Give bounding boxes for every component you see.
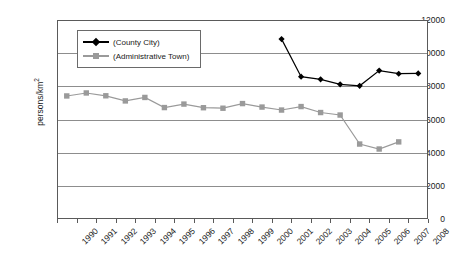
x-axis-tick-label: 2001	[294, 226, 314, 246]
x-axis-tick-label: 1995	[177, 226, 197, 246]
x-axis-tick	[272, 219, 273, 223]
x-axis: 1990199119921993199419951996199719981999…	[57, 219, 428, 260]
x-axis-tick	[155, 219, 156, 223]
gridline	[58, 186, 427, 187]
x-axis-tick	[233, 219, 234, 223]
legend-label-county-city: (County City)	[113, 38, 160, 47]
x-axis-tick-label: 1997	[216, 226, 236, 246]
x-axis-tick-label: 1992	[118, 226, 138, 246]
x-axis-tick	[57, 219, 58, 223]
x-axis-tick	[408, 219, 409, 223]
y-axis-title-text: persons/km	[35, 82, 45, 126]
x-axis-tick	[291, 219, 292, 223]
x-axis-tick-label: 2007	[411, 226, 431, 246]
gridline	[58, 153, 427, 154]
x-axis-tick	[428, 219, 429, 223]
x-axis-tick	[369, 219, 370, 223]
gridline	[58, 86, 427, 87]
x-axis-tick	[389, 219, 390, 223]
gridline	[58, 120, 427, 121]
legend-marker-county-city	[83, 36, 109, 48]
x-axis-tick	[96, 219, 97, 223]
x-axis-tick-label: 1991	[99, 226, 119, 246]
x-axis-tick	[77, 219, 78, 223]
x-axis-tick-label: 1996	[196, 226, 216, 246]
x-axis-tick-label: 2005	[372, 226, 392, 246]
x-axis-tick	[311, 219, 312, 223]
x-axis-tick-label: 1994	[157, 226, 177, 246]
x-axis-tick-label: 2006	[392, 226, 412, 246]
x-axis-tick	[116, 219, 117, 223]
x-axis-tick	[135, 219, 136, 223]
x-axis-tick	[350, 219, 351, 223]
legend-label-administrative-town: (Administrative Town)	[113, 52, 189, 61]
legend-marker-administrative-town	[83, 50, 109, 62]
x-axis-tick-label: 1998	[236, 226, 256, 246]
x-axis-tick-label: 2003	[333, 226, 353, 246]
x-axis-tick-label: 2002	[314, 226, 334, 246]
x-axis-tick	[252, 219, 253, 223]
legend-item-county-city: (County City)	[83, 35, 195, 49]
x-axis-tick-label: 1990	[79, 226, 99, 246]
x-axis-tick	[194, 219, 195, 223]
y-axis-title-exponent: 2	[33, 78, 40, 82]
x-axis-tick-label: 2008	[431, 226, 451, 246]
x-axis-tick	[213, 219, 214, 223]
x-axis-tick	[174, 219, 175, 223]
y-axis-title: persons/km2	[33, 57, 45, 147]
x-axis-tick-label: 1999	[255, 226, 275, 246]
chart-legend: (County City) (Administrative Town)	[77, 30, 201, 68]
x-axis-tick	[330, 219, 331, 223]
x-axis-tick-label: 2000	[275, 226, 295, 246]
legend-item-administrative-town: (Administrative Town)	[83, 49, 195, 63]
x-axis-tick-label: 2004	[353, 226, 373, 246]
x-axis-tick-label: 1993	[138, 226, 158, 246]
